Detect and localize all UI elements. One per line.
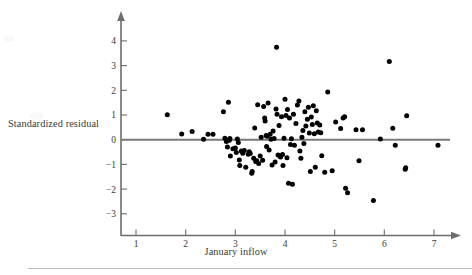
scatter-point (318, 130, 323, 135)
scatter-point (281, 163, 286, 168)
scatter-point (252, 126, 257, 131)
scatter-point (259, 135, 264, 140)
scatter-point (330, 168, 335, 173)
y-ticklabel-0: 0 (111, 135, 116, 145)
scatter-point (227, 136, 232, 141)
x-axis-arrowhead (451, 232, 461, 240)
page-divider-rule (28, 268, 472, 269)
y-ticklabel-4: 4 (111, 36, 116, 46)
scatter-point (322, 170, 327, 175)
scatter-point (258, 154, 263, 159)
scatter-point (228, 154, 233, 159)
scatter-point (277, 123, 282, 128)
scatter-point (190, 129, 195, 134)
scatter-point (221, 109, 226, 114)
scatter-point (263, 118, 268, 123)
scatter-point (179, 132, 184, 137)
scatter-point (314, 108, 319, 113)
scatter-point (360, 127, 365, 132)
scatter-points-group (165, 45, 441, 203)
scatter-point (300, 128, 305, 133)
scatter-point (390, 126, 395, 131)
scatter-point (255, 102, 260, 107)
scatter-point (267, 148, 272, 153)
scatter-point (371, 198, 376, 203)
scatter-point (342, 114, 347, 119)
scatter-point (285, 107, 290, 112)
scatter-point (338, 126, 343, 131)
scatter-point (302, 109, 307, 114)
scatter-point (210, 132, 215, 137)
scatter-point (271, 129, 276, 134)
scatter-point (284, 155, 289, 160)
scatter-point (343, 186, 348, 191)
scatter-point (393, 143, 398, 148)
scatter-point (310, 122, 315, 127)
scatter-point (248, 151, 253, 156)
scatter-point (165, 112, 170, 117)
y-ticklabel-neg2: −2 (106, 185, 116, 195)
scatter-point (275, 112, 280, 117)
scatter-point (306, 105, 311, 110)
scatter-point (354, 127, 359, 132)
scatter-point (206, 132, 211, 137)
scatter-point (289, 136, 294, 141)
scatter-point (282, 136, 287, 141)
scatter-point (234, 150, 239, 155)
scatter-point (307, 131, 312, 136)
x-tick-marks (136, 230, 434, 236)
scatter-point (297, 149, 302, 154)
y-axis-arrowhead (117, 11, 125, 21)
paper-smudge (4, 36, 14, 42)
scatter-point (317, 122, 322, 127)
scatter-point (403, 165, 408, 170)
scatter-point (250, 169, 255, 174)
scatter-point (272, 136, 277, 141)
scatter-point (283, 97, 288, 102)
scatter-point (225, 145, 230, 150)
scatter-point (290, 182, 295, 187)
scatter-point (279, 114, 284, 119)
scatter-point (236, 140, 241, 145)
y-axis-title: Standardized residual (8, 118, 99, 129)
y-ticklabel-neg1: −1 (106, 160, 116, 170)
scatter-point (299, 135, 304, 140)
y-ticklabel-2: 2 (111, 86, 116, 96)
scatter-point (435, 143, 440, 148)
scatter-point (274, 107, 279, 112)
scatter-point (298, 156, 303, 161)
scatter-point (243, 165, 248, 170)
scatter-point (237, 163, 242, 168)
y-ticklabel-neg3: −3 (106, 209, 116, 219)
scatter-point (311, 103, 316, 108)
scatter-point (274, 45, 279, 50)
scatter-point (303, 124, 308, 129)
scatter-point (309, 114, 314, 119)
scatter-point (296, 98, 301, 103)
y-ticklabel-3: 3 (111, 61, 116, 71)
x-axis-title: January inflow (0, 246, 472, 257)
scatter-point (233, 146, 238, 151)
scatter-point (345, 190, 350, 195)
scatter-point (333, 119, 338, 124)
scatter-point (242, 148, 247, 153)
scatter-point (226, 100, 231, 105)
scatter-point (313, 165, 318, 170)
scatter-point (273, 159, 278, 164)
scatter-point (287, 115, 292, 120)
plot-canvas: 4 3 2 1 0 −1 −2 −3 1 2 3 4 5 6 7 (0, 0, 472, 275)
scatter-point (291, 112, 296, 117)
scatter-point (387, 59, 392, 64)
scatter-point (404, 113, 409, 118)
scatter-point (308, 169, 313, 174)
scatter-point (266, 100, 271, 105)
scatter-point (280, 152, 285, 157)
scatter-plot-figure: 4 3 2 1 0 −1 −2 −3 1 2 3 4 5 6 7 Standar… (0, 0, 472, 275)
scatter-point (260, 158, 265, 163)
scatter-point (292, 143, 297, 148)
scatter-point (237, 157, 242, 162)
scatter-point (378, 136, 383, 141)
scatter-point (319, 153, 324, 158)
scatter-point (325, 90, 330, 95)
y-ticklabel-1: 1 (111, 110, 116, 120)
